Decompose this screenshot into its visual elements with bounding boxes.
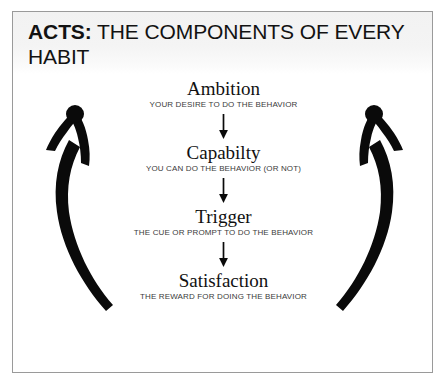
habit-step-title: Capabilty — [97, 142, 350, 163]
habit-step-list: Ambition YOUR DESIRE TO DO THE BEHAVIOR … — [97, 78, 350, 302]
habit-step-caption: THE REWARD FOR DOING THE BEHAVIOR — [97, 291, 350, 302]
habit-step: Capabilty YOU CAN DO THE BEHAVIOR (OR NO… — [97, 142, 350, 174]
habit-step-title: Satisfaction — [97, 270, 350, 291]
poster-title: ACTS: THE COMPONENTS OF EVERY HABIT — [28, 19, 418, 69]
habit-step-title: Trigger — [97, 206, 350, 227]
down-arrow-icon — [97, 238, 350, 270]
down-arrow-icon — [97, 110, 350, 142]
habit-step-caption: THE CUE OR PROMPT TO DO THE BEHAVIOR — [97, 227, 350, 238]
poster-title-acronym: ACTS: — [28, 20, 92, 43]
poster: ACTS: THE COMPONENTS OF EVERY HABIT Ambi… — [0, 0, 447, 389]
habit-step: Ambition YOUR DESIRE TO DO THE BEHAVIOR — [97, 78, 350, 110]
down-arrow-icon — [97, 174, 350, 206]
habit-step: Trigger THE CUE OR PROMPT TO DO THE BEHA… — [97, 206, 350, 238]
habit-step-caption: YOUR DESIRE TO DO THE BEHAVIOR — [97, 99, 350, 110]
habit-step: Satisfaction THE REWARD FOR DOING THE BE… — [97, 270, 350, 302]
habit-step-title: Ambition — [97, 78, 350, 99]
habit-step-caption: YOU CAN DO THE BEHAVIOR (OR NOT) — [97, 163, 350, 174]
